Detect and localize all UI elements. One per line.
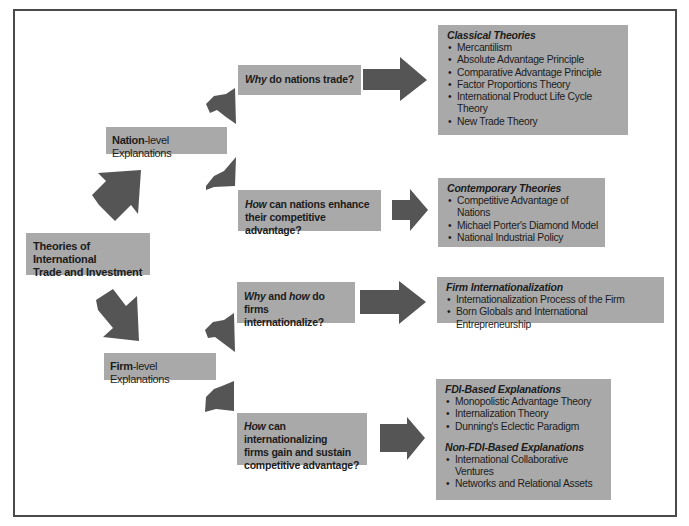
list-item: Mercantilism — [447, 42, 621, 54]
arrow-right-icon — [392, 189, 428, 231]
list-item: Comparative Advantage Principle — [447, 67, 621, 79]
question-line-3: competitive advantage? — [244, 459, 360, 472]
question-italic: How — [245, 198, 267, 210]
arrow-up-right-icon — [206, 88, 236, 124]
list-item: Internalization Theory — [445, 408, 604, 420]
list-item: Absolute Advantage Principle — [447, 54, 621, 66]
theory-heading: Firm Internationalization — [446, 281, 657, 294]
list-item: National Industrial Policy — [447, 232, 598, 244]
theory-list-2: International Collaborative Ventures Net… — [445, 454, 604, 491]
firm-level-box: Firm-level Explanations — [104, 353, 216, 380]
nation-level-box: Nation-level Explanations — [106, 127, 227, 154]
question-italic: Why — [245, 73, 267, 85]
root-line-2: Trade and Investment — [33, 266, 143, 279]
theory-heading: Contemporary Theories — [447, 182, 598, 195]
nation-level-bold: Nation — [112, 134, 144, 146]
question-line-2: firms gain and sustain — [244, 446, 360, 459]
theory-heading: Classical Theories — [447, 29, 621, 42]
theory-list: Competitive Advantage of Nations Michael… — [447, 195, 598, 244]
list-item: Monopolistic Advantage Theory — [445, 396, 604, 408]
theory-box-fdi: FDI-Based Explanations Monopolistic Adva… — [436, 379, 611, 500]
theory-box-firm-internationalization: Firm Internationalization Internationali… — [437, 277, 664, 323]
question-text: can nations enhance — [267, 198, 370, 210]
theory-heading: FDI-Based Explanations — [445, 383, 604, 396]
list-item: Networks and Relational Assets — [445, 478, 604, 490]
theory-box-classical: Classical Theories Mercantilism Absolute… — [438, 25, 628, 135]
list-item: International Collaborative Ventures — [445, 454, 604, 479]
root-line-1: Theories of International — [33, 240, 143, 266]
question-box-how-nations-enhance: How can nations enhance their competitiv… — [238, 190, 381, 231]
list-item: International Product Life Cycle Theory — [447, 91, 621, 116]
list-item: Michael Porter's Diamond Model — [447, 220, 598, 232]
theory-list: Internationalization Process of the Firm… — [446, 294, 657, 331]
arrow-down-right-icon — [96, 289, 139, 341]
theory-box-contemporary: Contemporary Theories Competitive Advant… — [438, 178, 605, 247]
arrow-down-right-icon — [206, 157, 236, 190]
arrow-up-right-icon — [92, 170, 141, 221]
question-italic-2: how — [289, 290, 309, 302]
list-item: Factor Proportions Theory — [447, 79, 621, 91]
arrow-right-icon — [360, 281, 426, 324]
list-item: Internationalization Process of the Firm — [446, 294, 657, 306]
list-item: Born Globals and International Entrepren… — [446, 306, 657, 331]
arrow-up-right-icon — [205, 313, 235, 352]
list-item: Dunning's Eclectic Paradigm — [445, 421, 604, 433]
question-italic: Why — [244, 290, 266, 302]
question-text-mid: and — [266, 290, 290, 302]
question-box-how-firms-sustain: How can internationalizing firms gain an… — [237, 413, 367, 465]
firm-level-bold: Firm — [110, 360, 133, 372]
arrow-down-right-icon — [205, 381, 234, 412]
spacer — [445, 433, 604, 441]
list-item: Competitive Advantage of Nations — [447, 195, 598, 220]
theory-heading-2: Non-FDI-Based Explanations — [445, 441, 604, 454]
question-box-why-how-firms: Why and how do firms internationalize? — [237, 282, 355, 323]
arrow-right-icon — [363, 57, 427, 101]
question-box-why-nations-trade: Why do nations trade? — [238, 65, 361, 95]
theory-list: Monopolistic Advantage Theory Internaliz… — [445, 396, 604, 433]
question-italic: How — [244, 420, 266, 432]
question-line-2: internationalize? — [244, 316, 348, 329]
question-line-2: their competitive advantage? — [245, 211, 374, 237]
question-text: do nations trade? — [267, 73, 354, 85]
root-box: Theories of International Trade and Inve… — [26, 233, 150, 275]
arrow-right-icon — [380, 417, 425, 460]
list-item: New Trade Theory — [447, 116, 621, 128]
theory-list: Mercantilism Absolute Advantage Principl… — [447, 42, 621, 128]
